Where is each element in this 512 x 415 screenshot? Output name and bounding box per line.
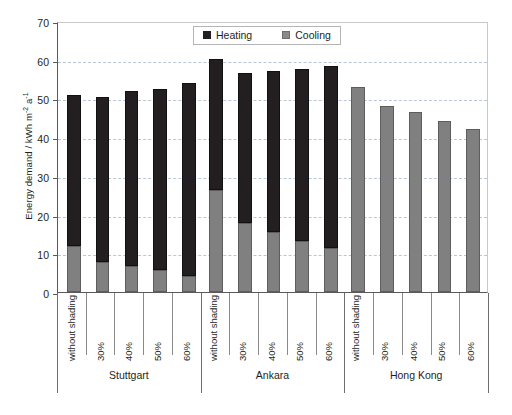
x-axis-category-label: without shading	[208, 295, 219, 361]
y-axis-tick-label: 30	[37, 172, 49, 184]
group-label: Ankara	[201, 369, 345, 381]
category-separator	[114, 293, 115, 355]
bar-segment-cooling	[67, 246, 81, 292]
y-axis-tick-label: 70	[37, 17, 49, 29]
group-separator	[201, 293, 202, 393]
group-label: Hong Kong	[344, 369, 488, 381]
legend-item-heating: Heating	[203, 29, 252, 41]
bar-segment-cooling	[238, 223, 252, 292]
bar-stack	[409, 21, 423, 292]
bar-segment-cooling	[125, 266, 139, 292]
legend-swatch-heating-icon	[203, 31, 211, 39]
bar-stack	[67, 21, 81, 292]
category-separator	[258, 293, 259, 355]
group-label: Stuttgart	[57, 369, 201, 381]
group-separator	[344, 293, 345, 393]
bar-segment-cooling	[153, 270, 167, 292]
x-axis-category-label: without shading	[350, 295, 361, 361]
category-separator	[402, 293, 403, 355]
x-axis-category-label: 30%	[237, 342, 248, 361]
x-axis-category-label: 40%	[408, 342, 419, 361]
bar-segment-cooling	[295, 241, 309, 292]
bar-segment-cooling	[267, 232, 281, 292]
group-label-band: StuttgartAnkaraHong Kong	[57, 363, 488, 393]
bar-stack	[125, 21, 139, 292]
bar-stack	[438, 21, 452, 292]
y-axis-tick	[53, 217, 58, 218]
y-axis-title: Energy demand / kWh m-2 a-1	[22, 66, 34, 246]
bar-stack	[153, 21, 167, 292]
y-axis-title-mid: a	[23, 99, 34, 107]
bar-segment-heating	[182, 83, 196, 276]
bar-segment-heating	[67, 95, 81, 247]
y-axis-tick-label: 40	[37, 133, 49, 145]
category-separator	[459, 293, 460, 355]
plot-area: 010203040506070	[57, 22, 488, 293]
y-axis-tick-label: 60	[37, 56, 49, 68]
category-separator	[86, 293, 87, 355]
bar-segment-cooling	[96, 262, 110, 292]
legend-label-heating: Heating	[216, 29, 252, 41]
category-separator	[431, 293, 432, 355]
y-axis-tick-label: 10	[37, 249, 49, 261]
legend-label-cooling: Cooling	[295, 29, 331, 41]
bar-segment-cooling	[438, 121, 452, 293]
category-label-band: without shading30%40%50%60%without shadi…	[57, 293, 488, 363]
bar-segment-cooling	[209, 190, 223, 292]
group-separator	[488, 293, 489, 393]
x-axis-category-label: 60%	[323, 342, 334, 361]
bar-stack	[380, 21, 394, 292]
category-separator	[172, 293, 173, 355]
y-axis-tick-label: 50	[37, 94, 49, 106]
bar-segment-heating	[267, 71, 281, 232]
y-axis-title-exp1: -2	[22, 107, 29, 113]
y-axis-title-exp2: -1	[22, 92, 29, 98]
y-axis-tick	[53, 23, 58, 24]
chart-figure: Energy demand / kWh m-2 a-1 010203040506…	[0, 0, 512, 415]
y-axis-title-main: Energy demand / kWh m	[23, 113, 34, 220]
category-separator	[373, 293, 374, 355]
y-axis-tick	[53, 255, 58, 256]
bar-segment-heating	[238, 73, 252, 223]
bar-stack	[238, 21, 252, 292]
category-separator	[143, 293, 144, 355]
y-axis-tick	[53, 62, 58, 63]
x-axis-category-label: 40%	[266, 342, 277, 361]
y-axis-tick-label: 0	[43, 288, 49, 300]
x-axis-category-label: 60%	[465, 342, 476, 361]
bar-segment-cooling	[182, 276, 196, 292]
y-axis-tick	[53, 100, 58, 101]
bar-stack	[182, 21, 196, 292]
bar-stack	[96, 21, 110, 292]
bar-segment-cooling	[380, 106, 394, 292]
bar-segment-heating	[209, 59, 223, 190]
bar-segment-cooling	[324, 248, 338, 292]
y-axis-tick	[53, 178, 58, 179]
bar-stack	[209, 21, 223, 292]
category-separator	[229, 293, 230, 355]
bar-segment-cooling	[351, 87, 365, 292]
legend-swatch-cooling-icon	[282, 31, 290, 39]
bar-stack	[351, 21, 365, 292]
x-axis-category-label: 50%	[152, 342, 163, 361]
bar-segment-heating	[295, 69, 309, 241]
legend-item-cooling: Cooling	[282, 29, 331, 41]
x-axis-category-label: without shading	[66, 295, 77, 361]
x-axis-category-label: 60%	[181, 342, 192, 361]
bar-segment-heating	[125, 91, 139, 265]
bar-segment-heating	[96, 97, 110, 263]
category-separator	[316, 293, 317, 355]
bar-segment-heating	[153, 89, 167, 271]
x-axis-category-label: 50%	[294, 342, 305, 361]
x-axis-category-label: 30%	[95, 342, 106, 361]
x-axis-category-label: 50%	[436, 342, 447, 361]
bar-segment-cooling	[409, 112, 423, 292]
group-separator	[57, 293, 58, 393]
x-axis-category-label: 30%	[379, 342, 390, 361]
y-axis-tick	[53, 139, 58, 140]
bar-segment-cooling	[466, 129, 480, 292]
bar-stack	[267, 21, 281, 292]
y-axis-tick-label: 20	[37, 211, 49, 223]
bar-stack	[466, 21, 480, 292]
chart-legend: Heating Cooling	[193, 26, 341, 45]
